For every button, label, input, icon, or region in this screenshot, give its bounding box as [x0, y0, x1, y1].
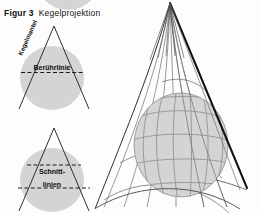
beruehrlinie-label: Berührlinie: [34, 64, 71, 71]
top-partial-sphere: [36, 0, 100, 10]
schnittlinien-label-line1: Schnitt-: [39, 168, 66, 175]
figure-root: Figur 3Kegelprojektion: [0, 0, 261, 213]
tangent-cone-diagram: Kegelmantel Berührlinie: [17, 19, 89, 110]
secant-sphere: [20, 148, 84, 212]
cone-base-tail-arc: [216, 180, 247, 190]
perspective-cone-globe: [95, 3, 247, 213]
schnittlinien-label-line2: linien: [43, 181, 61, 188]
kegelprojektion-diagram: Kegelmantel Berührlinie Schnitt- linien: [0, 0, 261, 213]
tangent-sphere: [20, 46, 84, 110]
secant-cone-diagram: Schnitt- linien: [18, 128, 90, 212]
